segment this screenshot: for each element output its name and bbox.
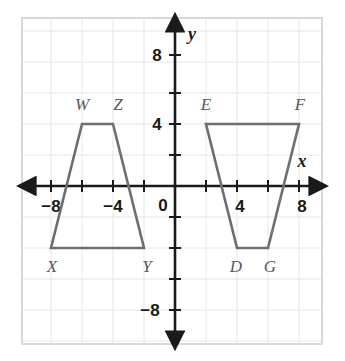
y-tick-label-4: 4 [152, 115, 162, 134]
x-axis-label: x [297, 151, 307, 171]
y-tick-label-neg8: −8 [140, 301, 159, 320]
origin-label: 0 [158, 196, 167, 215]
x-tick-label-neg4: −4 [103, 197, 123, 216]
y-axis-label: y [186, 24, 197, 44]
x-tick-label-4: 4 [235, 197, 245, 216]
y-tick-label-8: 8 [152, 46, 161, 65]
coordinate-plane-figure: x y 0 −8 −4 4 8 8 4 −8 W Z Y X E F G D [0, 0, 345, 361]
vertex-label-x: X [46, 257, 58, 276]
vertex-label-d: D [229, 257, 243, 276]
vertex-label-w: W [75, 95, 91, 114]
x-tick-label-8: 8 [297, 197, 306, 216]
coordinate-plane-svg: x y 0 −8 −4 4 8 8 4 −8 W Z Y X E F G D [0, 0, 345, 361]
vertex-label-e: E [200, 95, 212, 114]
vertex-label-y: Y [142, 257, 153, 276]
vertex-label-f: F [294, 95, 306, 114]
vertex-label-z: Z [113, 95, 123, 114]
x-tick-label-neg8: −8 [41, 197, 60, 216]
vertex-label-g: G [264, 257, 276, 276]
